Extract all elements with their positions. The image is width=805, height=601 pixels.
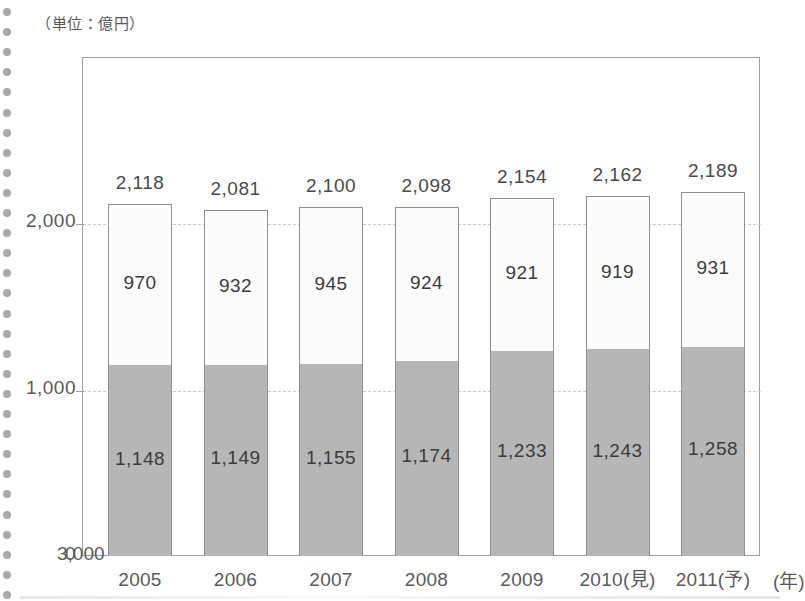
scan-artifact <box>20 596 780 599</box>
bar-value-upper: 970 <box>109 272 171 294</box>
bar-segment-upper[interactable]: 945 <box>299 207 363 364</box>
bar-total-label: 2,118 <box>94 172 186 194</box>
bar-segment-lower[interactable]: 1,149 <box>204 365 268 556</box>
bar-value-upper: 931 <box>682 257 744 279</box>
x-axis-category-label: 2007 <box>277 569 385 591</box>
bar-group[interactable]: 1,2339212,1542009 <box>490 198 554 556</box>
bar-value-lower: 1,258 <box>682 438 744 460</box>
bar-group[interactable]: 1,2589312,1892011(予) <box>681 192 745 556</box>
bar-value-lower: 1,155 <box>300 447 362 469</box>
bar-total-label: 2,081 <box>190 178 282 200</box>
bar-value-lower: 1,148 <box>109 448 171 470</box>
bar-value-lower: 1,174 <box>396 445 458 467</box>
bar-total-label: 2,189 <box>667 160 759 182</box>
x-axis-category-label: 2011(予) <box>659 564 767 591</box>
bar-group[interactable]: 1,1559452,1002007 <box>299 207 363 556</box>
bar-total-label: 2,098 <box>381 175 473 197</box>
bar-value-upper: 921 <box>491 262 553 284</box>
bar-total-label: 2,100 <box>285 175 377 197</box>
bar-segment-lower[interactable]: 1,148 <box>108 365 172 556</box>
bar-segment-upper[interactable]: 931 <box>681 192 745 347</box>
bar-group[interactable]: 1,1749242,0982008 <box>395 207 459 556</box>
x-axis-category-label: 2005 <box>86 569 194 591</box>
bar-value-lower: 1,233 <box>491 440 553 462</box>
bar-segment-lower[interactable]: 1,233 <box>490 351 554 556</box>
bar-group[interactable]: 1,1489702,1182005 <box>108 204 172 556</box>
x-axis-category-label: 2009 <box>468 569 576 591</box>
bar-value-lower: 1,149 <box>205 447 267 469</box>
bar-total-label: 2,154 <box>476 166 568 188</box>
bar-group[interactable]: 1,2439192,1622010(見) <box>586 196 650 556</box>
bar-value-lower: 1,243 <box>587 440 649 462</box>
bar-segment-lower[interactable]: 1,174 <box>395 361 459 556</box>
bar-segment-upper[interactable]: 932 <box>204 210 268 365</box>
bar-segment-upper[interactable]: 921 <box>490 198 554 351</box>
bar-value-upper: 924 <box>396 272 458 294</box>
bar-segment-lower[interactable]: 1,258 <box>681 347 745 556</box>
bar-value-upper: 919 <box>587 261 649 283</box>
bar-segment-lower[interactable]: 1,243 <box>586 349 650 556</box>
x-axis-unit-label: (年) <box>773 566 805 593</box>
y-axis-zero-label: 3,000 <box>57 543 105 565</box>
bar-segment-lower[interactable]: 1,155 <box>299 364 363 556</box>
bar-segment-upper[interactable]: 924 <box>395 207 459 361</box>
bar-segment-upper[interactable]: 919 <box>586 196 650 349</box>
x-axis-category-label: 2008 <box>373 569 481 591</box>
x-axis-category-label: 2010(見) <box>564 564 672 591</box>
bar-group[interactable]: 1,1499322,0812006 <box>204 210 268 556</box>
bar-segment-upper[interactable]: 970 <box>108 204 172 365</box>
bar-value-upper: 932 <box>205 275 267 297</box>
bar-value-upper: 945 <box>300 273 362 295</box>
x-axis-category-label: 2006 <box>182 569 290 591</box>
bar-total-label: 2,162 <box>572 164 664 186</box>
